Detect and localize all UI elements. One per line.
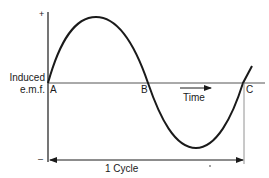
- positive-marker: +: [39, 9, 44, 19]
- cycle-span-label: 1 Cycle: [105, 164, 138, 174]
- y-axis-label-line2: e.m.f.: [20, 85, 45, 95]
- time-axis-label: Time: [183, 93, 205, 103]
- point-c-label: C: [246, 85, 253, 95]
- point-a-label: A: [50, 85, 57, 95]
- negative-marker: –: [38, 154, 43, 164]
- y-axis-label-line1: Induced: [9, 73, 45, 83]
- point-b-label: B: [141, 85, 148, 95]
- footnote-dot: [209, 165, 211, 167]
